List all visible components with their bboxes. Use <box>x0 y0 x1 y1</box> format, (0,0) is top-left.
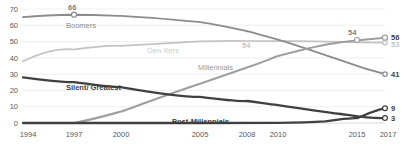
y-tick-40: 40 <box>10 54 18 63</box>
value-label-boomers-peak: 66 <box>68 3 76 12</box>
value-label-boomers-end: 41 <box>391 70 399 79</box>
series-label-silent-greatest: Silent/ Greatest <box>66 83 122 92</box>
marker-boomers-end <box>383 72 388 77</box>
marker-millennials-2015 <box>355 38 360 43</box>
y-tick-0: 0 <box>14 119 18 128</box>
marker-boomers-1997 <box>72 12 77 17</box>
series-label-boomers: Boomers <box>66 21 96 30</box>
x-tick-2010: 2010 <box>270 130 287 139</box>
y-axis-tick-labels: 70 60 50 40 30 20 10 0 <box>10 5 18 128</box>
value-label-millennials-2015: 54 <box>348 28 357 37</box>
series-inline-labels: Boomers Gen Xers Millennials Silent/ Gre… <box>66 21 233 126</box>
y-tick-50: 50 <box>10 37 18 46</box>
x-tick-2015: 2015 <box>349 130 366 139</box>
x-tick-2017: 2017 <box>380 130 397 139</box>
value-label-gen-xers-mid: 54 <box>242 41 251 50</box>
marker-silent-greatest-end <box>383 116 388 121</box>
marker-gen-xers-end <box>383 40 388 45</box>
series-label-gen-xers: Gen Xers <box>147 46 179 55</box>
x-tick-1994: 1994 <box>20 130 37 139</box>
y-tick-20: 20 <box>10 86 18 95</box>
series-label-post-millennials: Post-Millennials <box>172 117 229 126</box>
x-tick-2005: 2005 <box>192 130 209 139</box>
y-tick-70: 70 <box>10 5 18 14</box>
x-axis-tick-labels: 1994 1997 2000 2005 2008 2010 2015 2017 <box>20 130 397 139</box>
series-label-millennials: Millennials <box>198 63 233 72</box>
y-tick-60: 60 <box>10 21 18 30</box>
y-tick-10: 10 <box>10 102 18 111</box>
chart-plot-area: 70 60 50 40 30 20 10 0 1994 1997 2000 20… <box>0 0 410 151</box>
line-millennials <box>23 38 385 123</box>
x-tick-2000: 2000 <box>113 130 130 139</box>
y-tick-30: 30 <box>10 70 18 79</box>
generations-line-chart: 70 60 50 40 30 20 10 0 1994 1997 2000 20… <box>0 0 410 151</box>
value-label-gen-xers-end: 53 <box>391 40 399 49</box>
value-label-post-millennials-end: 9 <box>391 104 395 113</box>
marker-post-millennials-end <box>383 106 388 111</box>
x-tick-2008: 2008 <box>239 130 256 139</box>
x-tick-1997: 1997 <box>66 130 83 139</box>
marker-millennials-end <box>383 35 388 40</box>
value-label-silent-end: 3 <box>391 114 395 123</box>
